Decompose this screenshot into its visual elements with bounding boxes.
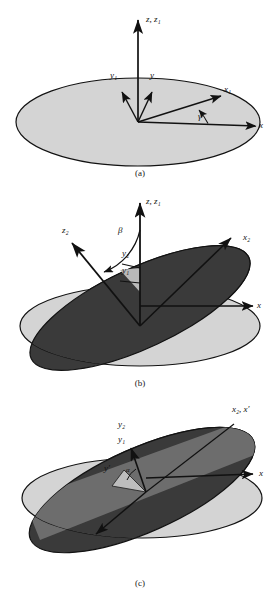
label-panel-b-z2: z₂ [62,225,69,235]
label-panel-c-x: x [259,468,263,478]
label-panel-b-x: x [257,300,261,310]
label-panel-a-y1: y₁ [110,70,117,80]
label-panel-b-beta: β [118,225,122,235]
label-panel-a-z-z1: z, z₁ [146,14,161,24]
label-panel-c-alpha: α [126,466,130,474]
label-panel-b-y1: y₁ [122,265,129,275]
label-panel-a-x: x [259,120,263,130]
caption-panel-a: (a) [0,168,280,178]
caption-panel-b: (b) [0,378,280,388]
label-panel-b-y2: y₂ [122,248,129,258]
label-panel-c-y2: y₂ [118,419,125,429]
euler-rotation-figure [0,0,280,605]
label-panel-b-x2: x₂ [243,232,250,242]
panel-c [13,402,270,578]
label-panel-b-z-z1: z, z₁ [146,196,161,206]
label-panel-a-gamma: γ [198,111,202,121]
label-panel-a-y: y [150,70,154,80]
label-panel-c-yprime: y′ [104,463,110,473]
label-panel-c-x2-xprime: x₂, x′ [232,404,250,414]
label-panel-a-x1: x₁ [224,84,231,94]
caption-panel-c: (c) [0,578,280,588]
label-panel-c-y1: y₁ [118,434,125,444]
panel-b [14,203,265,395]
